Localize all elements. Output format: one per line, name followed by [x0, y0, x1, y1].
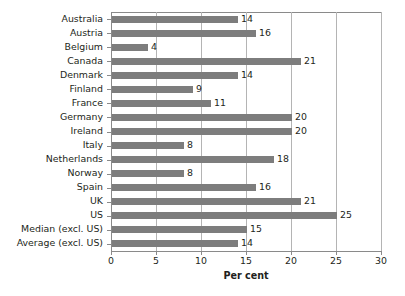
bar [112, 240, 238, 247]
x-tick-label-5: 5 [141, 256, 171, 266]
bar-value-label: 8 [187, 168, 193, 178]
y-tick-mark [107, 61, 111, 62]
bar [112, 170, 184, 177]
bar-value-label: 9 [196, 84, 202, 94]
category-label: Belgium [0, 42, 107, 52]
category-label: Germany [0, 112, 107, 122]
x-tick-label-0: 0 [96, 256, 126, 266]
x-axis-title: Per cent [111, 270, 381, 281]
bar-value-label: 16 [259, 182, 271, 192]
category-label: Ireland [0, 126, 107, 136]
category-label: Norway [0, 168, 107, 178]
y-tick-mark [107, 202, 111, 203]
bar-value-label: 20 [295, 126, 307, 136]
x-tick-label-10: 10 [186, 256, 216, 266]
bar [112, 198, 301, 205]
category-label: Finland [0, 84, 107, 94]
bar [112, 30, 256, 37]
bar [112, 100, 211, 107]
bar [112, 44, 148, 51]
y-tick-mark [107, 47, 111, 48]
bar-value-label: 25 [340, 210, 352, 220]
bar-value-label: 21 [304, 56, 316, 66]
y-tick-mark [107, 19, 111, 20]
bar [112, 156, 274, 163]
category-label: Average (excl. US) [0, 238, 107, 248]
bar-value-label: 21 [304, 196, 316, 206]
bar [112, 142, 184, 149]
bar-value-label: 8 [187, 140, 193, 150]
y-tick-mark [107, 117, 111, 118]
y-tick-mark [107, 174, 111, 175]
bar [112, 16, 238, 23]
bar-value-label: 14 [241, 70, 253, 80]
y-tick-mark [107, 146, 111, 147]
category-label: Canada [0, 56, 107, 66]
bar [112, 114, 292, 121]
bar-value-label: 4 [151, 42, 157, 52]
bar [112, 226, 247, 233]
category-label: Netherlands [0, 154, 107, 164]
bar-chart: AustraliaAustriaBelgiumCanadaDenmarkFinl… [0, 0, 405, 296]
bar [112, 58, 301, 65]
bar-value-label: 18 [277, 154, 289, 164]
y-tick-mark [107, 216, 111, 217]
y-tick-mark [107, 33, 111, 34]
y-tick-mark [107, 160, 111, 161]
bar [112, 212, 337, 219]
x-tick-label-25: 25 [321, 256, 351, 266]
category-label: Australia [0, 14, 107, 24]
x-tick-label-20: 20 [276, 256, 306, 266]
bar [112, 86, 193, 93]
y-tick-mark [107, 75, 111, 76]
bar-value-label: 14 [241, 238, 253, 248]
bar-value-label: 15 [250, 224, 262, 234]
bar-value-label: 14 [241, 14, 253, 24]
category-label: Spain [0, 182, 107, 192]
category-label: Median (excl. US) [0, 224, 107, 234]
category-label: UK [0, 196, 107, 206]
category-label: France [0, 98, 107, 108]
x-tick-label-30: 30 [366, 256, 396, 266]
x-tick-label-15: 15 [231, 256, 261, 266]
bar [112, 72, 238, 79]
y-tick-mark [107, 89, 111, 90]
bar-value-label: 11 [214, 98, 226, 108]
bar-value-label: 20 [295, 112, 307, 122]
y-tick-mark [107, 188, 111, 189]
y-tick-mark [107, 244, 111, 245]
category-label: Denmark [0, 70, 107, 80]
bar [112, 184, 256, 191]
y-tick-mark [107, 103, 111, 104]
plot-area: 141642114911202081881621251514 [111, 12, 381, 251]
bar-value-label: 16 [259, 28, 271, 38]
bar [112, 128, 292, 135]
category-label: Italy [0, 140, 107, 150]
y-tick-mark [107, 230, 111, 231]
category-label: Austria [0, 28, 107, 38]
category-label: US [0, 210, 107, 220]
gridline-30 [381, 12, 382, 251]
y-tick-mark [107, 132, 111, 133]
